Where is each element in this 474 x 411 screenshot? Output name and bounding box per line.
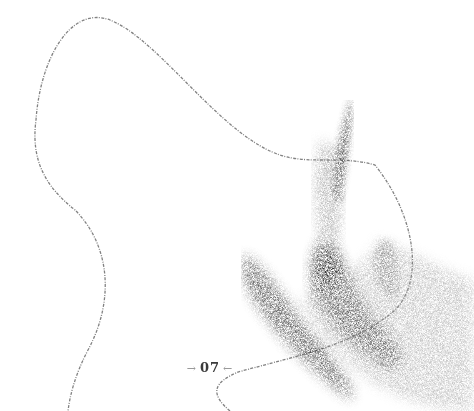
right-arrow-icon: → — [187, 362, 197, 375]
left-arrow-icon: ← — [223, 362, 233, 375]
page-number-value: 07 — [200, 360, 220, 375]
page: →07← — [0, 0, 474, 411]
page-number: →07← — [172, 360, 248, 375]
stipple-illustration — [0, 0, 474, 411]
